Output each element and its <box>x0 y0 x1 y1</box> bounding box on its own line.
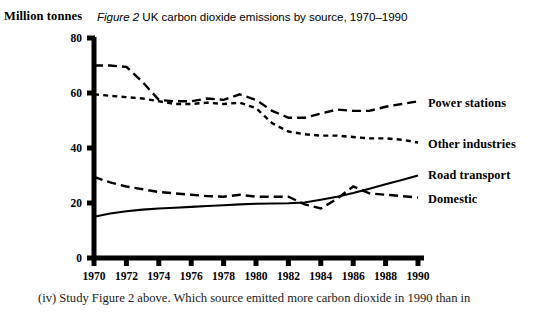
series-line-2 <box>94 176 418 217</box>
x-axis-tick-label: 1978 <box>212 270 235 282</box>
x-axis-tick-label: 1980 <box>245 270 268 282</box>
series-label-1: Other industries <box>428 137 516 151</box>
y-axis-tick-label: 0 <box>76 252 82 264</box>
x-axis-tick-label: 1988 <box>374 270 397 282</box>
y-axis-tick-label: 80 <box>71 32 83 44</box>
x-axis-tick-label: 1972 <box>115 270 138 282</box>
y-axis-tick-label: 60 <box>71 87 83 99</box>
x-axis-tick-label: 1970 <box>83 270 106 282</box>
x-axis-tick-label: 1990 <box>407 270 430 282</box>
y-axis-tick-label: 40 <box>71 142 83 154</box>
x-axis-tick-label: 1974 <box>147 270 170 282</box>
y-axis-tick-label: 20 <box>71 197 83 209</box>
series-line-0 <box>94 66 418 118</box>
line-chart-plot: 0204060801970197219741976197819801982198… <box>0 0 553 285</box>
series-label-3: Domestic <box>428 192 478 206</box>
x-axis-tick-label: 1976 <box>180 270 203 282</box>
x-axis-tick-label: 1982 <box>277 270 300 282</box>
series-line-1 <box>94 94 418 142</box>
x-axis-tick-label: 1986 <box>342 270 365 282</box>
figure-container: Million tonnes Figure 2 UK carbon dioxid… <box>0 0 553 317</box>
x-axis-tick-label: 1984 <box>309 270 332 282</box>
series-label-2: Road transport <box>428 168 511 182</box>
series-label-0: Power stations <box>428 96 506 110</box>
question-caption: (iv) Study Figure 2 above. Which source … <box>38 291 470 306</box>
